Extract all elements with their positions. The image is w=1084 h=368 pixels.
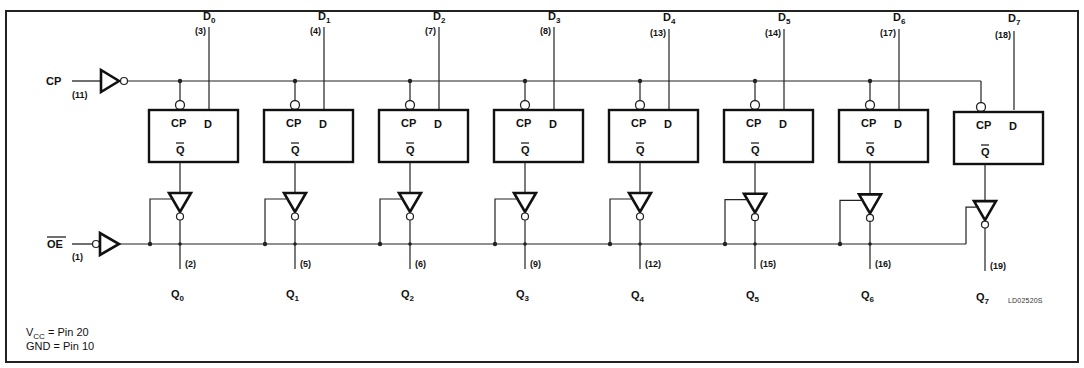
junction-dot <box>178 79 182 83</box>
output-label: Q3 <box>516 288 530 303</box>
output-label: Q6 <box>861 289 875 304</box>
data-input-label: D3 <box>548 10 561 25</box>
flip-flop-stage-3: D3(8)CPDQ(9)Q3 <box>493 10 583 303</box>
junction-dot <box>148 242 152 246</box>
data-input-pin: (4) <box>310 26 321 36</box>
d-flip-flop <box>494 110 583 162</box>
inversion-bubble-icon <box>637 213 644 220</box>
clock-inversion-bubble-icon <box>751 101 760 110</box>
data-input-pin: (3) <box>195 26 206 36</box>
clock-inversion-bubble-icon <box>977 103 986 112</box>
q-bar-pin-label: Q <box>406 144 415 156</box>
junction-dot <box>263 242 267 246</box>
tri-state-inverter-icon <box>284 193 306 212</box>
tri-state-inverter-icon <box>399 193 421 212</box>
data-input-pin: (13) <box>650 28 666 38</box>
clock-pin-label: CP <box>631 117 646 129</box>
data-pin-label: D <box>664 118 672 130</box>
data-input-label: D0 <box>203 10 216 25</box>
junction-dot <box>753 79 757 83</box>
data-pin-label: D <box>434 118 442 130</box>
oe-buffer-icon <box>100 233 119 255</box>
output-label: Q5 <box>746 289 760 304</box>
clock-pin-label: CP <box>746 117 761 129</box>
gnd-note: GND = Pin 10 <box>26 340 94 352</box>
junction-dot <box>378 242 382 246</box>
tri-state-inverter-icon <box>169 193 191 212</box>
clock-inversion-bubble-icon <box>866 101 875 110</box>
clock-inversion-bubble-icon <box>406 101 415 110</box>
flip-flop-stage-5: D5(14)CPDQ(15)Q5 <box>723 11 813 304</box>
output-pin: (6) <box>415 259 426 269</box>
inversion-bubble-icon <box>121 78 128 85</box>
output-enable-input: OE (1) <box>47 233 966 262</box>
data-pin-label: D <box>549 118 557 130</box>
d-flip-flop <box>839 110 928 162</box>
data-input-label: D5 <box>778 11 791 26</box>
logic-diagram: CP (11) OE (1) D0(3)CPDQ(2)Q0D1(4)CPDQ(5… <box>0 0 1084 368</box>
data-input-label: D6 <box>893 11 906 26</box>
tri-state-inverter-icon <box>744 194 766 213</box>
clock-pin-label: CP <box>861 117 876 129</box>
data-input-label: D4 <box>663 11 676 26</box>
vcc-note: VCC = Pin 20 <box>26 326 89 341</box>
tri-state-inverter-icon <box>629 193 651 212</box>
q-bar-pin-label: Q <box>981 146 990 158</box>
data-input-label: D2 <box>433 10 446 25</box>
drawing-code: LD02520S <box>1008 297 1043 304</box>
output-label: Q2 <box>401 288 415 303</box>
q-bar-pin-label: Q <box>176 144 185 156</box>
output-pin: (9) <box>530 259 541 269</box>
clock-pin-label: CP <box>516 117 531 129</box>
inversion-bubble-icon <box>177 213 184 220</box>
output-pin: (5) <box>300 259 311 269</box>
q-bar-pin-label: Q <box>751 144 760 156</box>
data-input-pin: (7) <box>425 26 436 36</box>
junction-dot <box>493 242 497 246</box>
inversion-bubble-icon <box>752 214 759 221</box>
junction-dot <box>723 242 727 246</box>
q-bar-pin-label: Q <box>866 144 875 156</box>
output-enable-pin: (1) <box>72 252 83 262</box>
tri-state-inverter-icon <box>514 193 536 212</box>
inversion-bubble-icon <box>407 213 414 220</box>
flip-flop-stage-4: D4(13)CPDQ(12)Q4 <box>608 11 698 304</box>
inversion-bubble-icon <box>982 221 989 228</box>
output-label: Q4 <box>631 289 645 304</box>
clock-inversion-bubble-icon <box>291 101 300 110</box>
data-pin-label: D <box>894 118 902 130</box>
data-input-pin: (18) <box>995 30 1011 40</box>
q-bar-pin-label: Q <box>521 144 530 156</box>
data-pin-label: D <box>319 118 327 130</box>
inversion-bubble-icon <box>93 241 100 248</box>
output-label: Q0 <box>171 288 185 303</box>
clock-input-label: CP <box>46 75 61 87</box>
junction-dot <box>293 79 297 83</box>
clock-pin-label: CP <box>171 117 186 129</box>
junction-dot <box>608 242 612 246</box>
data-pin-label: D <box>204 118 212 130</box>
data-input-pin: (8) <box>540 26 551 36</box>
q-bar-pin-label: Q <box>636 144 645 156</box>
d-flip-flop <box>954 112 1043 164</box>
junction-dot <box>523 79 527 83</box>
output-pin: (15) <box>760 259 776 269</box>
tri-state-inverter-icon <box>859 194 881 213</box>
clock-input-pin: (11) <box>72 90 88 100</box>
output-enable-label: OE <box>47 238 63 250</box>
clock-inversion-bubble-icon <box>521 101 530 110</box>
data-pin-label: D <box>779 118 787 130</box>
clock-inversion-bubble-icon <box>636 101 645 110</box>
inversion-bubble-icon <box>522 213 529 220</box>
data-input-label: D1 <box>318 10 331 25</box>
clock-pin-label: CP <box>286 117 301 129</box>
junction-dot <box>408 79 412 83</box>
flip-flop-stage-2: D2(7)CPDQ(6)Q2 <box>378 10 468 303</box>
flip-flop-stage-1: D1(4)CPDQ(5)Q1 <box>263 10 353 303</box>
junction-dot <box>838 242 842 246</box>
inversion-bubble-icon <box>292 213 299 220</box>
clock-pin-label: CP <box>401 117 416 129</box>
clock-buffer-icon <box>101 70 119 92</box>
junction-dot <box>868 79 872 83</box>
d-flip-flop <box>264 110 353 162</box>
